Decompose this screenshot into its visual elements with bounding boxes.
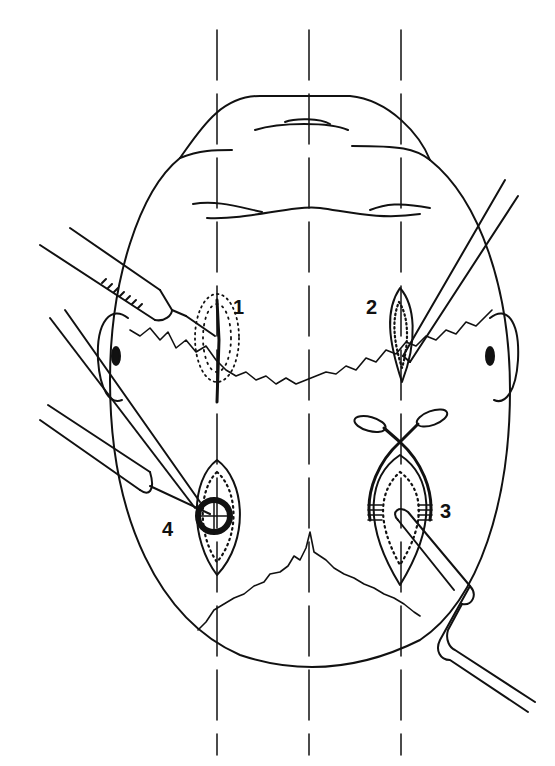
step-4-incision	[197, 460, 240, 575]
step-label-4: 4	[162, 518, 173, 541]
ears	[98, 313, 518, 401]
guide-lines	[217, 30, 401, 755]
step-label-2: 2	[366, 296, 377, 319]
step-1-syringe	[40, 228, 215, 336]
head-outline	[110, 96, 510, 667]
step-2-incision	[390, 180, 518, 382]
step-3-curved-instrument	[395, 509, 535, 712]
illustration: 1 2 3 4	[0, 0, 555, 766]
step-label-3: 3	[440, 500, 451, 523]
step-1-incision	[217, 300, 219, 402]
step-label-1: 1	[233, 296, 244, 319]
head-diagram	[0, 0, 555, 766]
